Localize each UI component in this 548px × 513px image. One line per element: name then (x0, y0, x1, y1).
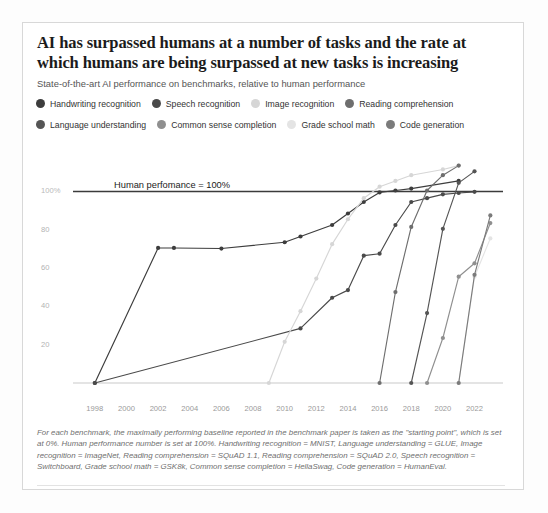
page-title: AI has surpassed humans at a number of t… (37, 33, 503, 73)
series-point (346, 288, 350, 292)
y-axis-tick-label: 100% (41, 186, 60, 195)
series-point (298, 309, 302, 313)
series-point (457, 381, 461, 385)
series-point (472, 273, 476, 277)
series-point (377, 185, 381, 189)
series-point (457, 164, 461, 168)
series-point (393, 223, 397, 227)
chart-footnote: For each benchmark, the maximally perfor… (37, 427, 505, 473)
series-line (427, 223, 490, 383)
series-point (457, 191, 461, 195)
series-point (441, 192, 445, 196)
legend-item[interactable]: Code generation (386, 120, 464, 130)
legend-dot-icon (287, 120, 296, 129)
series-point (457, 181, 461, 185)
series-point (425, 381, 429, 385)
legend-row: Handwriting recognitionSpeech recognitio… (36, 93, 514, 114)
legend-item[interactable]: Common sense completion (157, 120, 276, 130)
series-code-generation (457, 213, 493, 385)
series-point (425, 196, 429, 200)
legend-dot-icon (386, 120, 395, 129)
series-point (330, 296, 334, 300)
chart-legend: Handwriting recognitionSpeech recognitio… (36, 93, 514, 135)
chart-card: AI has surpassed humans at a number of t… (22, 22, 524, 490)
series-point (409, 200, 413, 204)
legend-label: Handwriting recognition (50, 99, 141, 109)
series-language-understanding (409, 169, 476, 385)
series-point (425, 188, 429, 192)
series-point (409, 173, 413, 177)
legend-item[interactable]: Grade school math (287, 120, 374, 130)
series-line (459, 238, 491, 383)
human-performance-label: Human perfomance = 100% (111, 180, 233, 190)
x-axis-tick-label: 2022 (455, 404, 495, 413)
legend-dot-icon (157, 120, 166, 129)
series-point (330, 242, 334, 246)
series-point (377, 381, 381, 385)
y-axis-tick-label: 20 (41, 340, 49, 349)
series-line (411, 171, 474, 383)
legend-item[interactable]: Language understanding (36, 120, 146, 130)
series-point (298, 234, 302, 238)
series-point (488, 213, 492, 217)
line-chart-svg (37, 149, 511, 421)
series-point (172, 246, 176, 250)
legend-row: Language understandingCommon sense compl… (36, 114, 514, 135)
series-speech-recognition (93, 190, 477, 385)
legend-label: Code generation (400, 120, 464, 130)
series-line (95, 181, 459, 383)
plot-area: Human perfomance = 100% 20406080100%1998… (37, 149, 511, 421)
series-point (156, 246, 160, 250)
series-point (425, 311, 429, 315)
series-point (393, 179, 397, 183)
series-point (283, 340, 287, 344)
y-axis-tick-label: 80 (41, 225, 49, 234)
legend-item[interactable]: Speech recognition (152, 99, 240, 109)
legend-dot-icon (251, 99, 260, 108)
series-point (393, 188, 397, 192)
series-point (93, 381, 97, 385)
series-point (472, 169, 476, 173)
series-point (314, 277, 318, 281)
legend-label: Speech recognition (166, 99, 240, 109)
legend-item[interactable]: Handwriting recognition (36, 99, 141, 109)
series-point (409, 187, 413, 191)
footer-divider (37, 485, 505, 486)
series-point (441, 227, 445, 231)
series-point (377, 190, 381, 194)
y-axis-tick-label: 60 (41, 263, 49, 272)
series-point (488, 236, 492, 240)
legend-dot-icon (345, 99, 354, 108)
series-point (362, 254, 366, 258)
series-line (459, 215, 491, 383)
legend-label: Language understanding (50, 120, 146, 130)
series-point (441, 336, 445, 340)
legend-label: Grade school math (301, 120, 374, 130)
chart-subtitle: State-of-the-art AI performance on bench… (37, 77, 507, 90)
series-point (346, 211, 350, 215)
series-point (219, 246, 223, 250)
series-point (362, 196, 366, 200)
legend-item[interactable]: Reading comprehension (345, 99, 453, 109)
legend-item[interactable]: Image recognition (251, 99, 334, 109)
legend-label: Image recognition (265, 99, 334, 109)
series-point (393, 290, 397, 294)
legend-dot-icon (152, 99, 161, 108)
series-point (409, 225, 413, 229)
legend-label: Common sense completion (171, 120, 276, 130)
legend-dot-icon (36, 120, 45, 129)
series-point (457, 275, 461, 279)
series-point (472, 190, 476, 194)
time-logo: TIME (468, 489, 509, 490)
series-point (441, 173, 445, 177)
series-point (283, 240, 287, 244)
series-point (441, 167, 445, 171)
series-point (330, 223, 334, 227)
y-axis-tick-label: 40 (41, 301, 49, 310)
series-point (377, 252, 381, 256)
series-reading-comprehension (377, 164, 460, 386)
series-point (298, 326, 302, 330)
legend-label: Reading comprehension (359, 99, 453, 109)
series-point (472, 261, 476, 265)
series-point (346, 217, 350, 221)
